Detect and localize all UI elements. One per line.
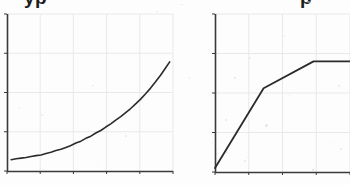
right-chart — [212, 14, 350, 175]
scan-speckle — [340, 148, 342, 150]
scan-speckle — [244, 160, 246, 162]
scan-speckle — [333, 143, 334, 144]
scan-speckle — [249, 57, 251, 59]
data-line-rising-exponential — [11, 62, 170, 160]
scan-speckle — [265, 124, 267, 126]
scan-speckle — [338, 85, 340, 87]
charts-canvas — [0, 0, 350, 185]
left-chart — [4, 14, 173, 174]
scan-speckle — [178, 14, 179, 15]
scan-speckle — [156, 11, 157, 12]
scan-speckle — [312, 169, 313, 170]
scan-speckle — [189, 77, 190, 78]
figure-root: yp p — [0, 0, 350, 185]
scan-speckle — [234, 77, 235, 78]
scan-speckle — [97, 162, 98, 163]
